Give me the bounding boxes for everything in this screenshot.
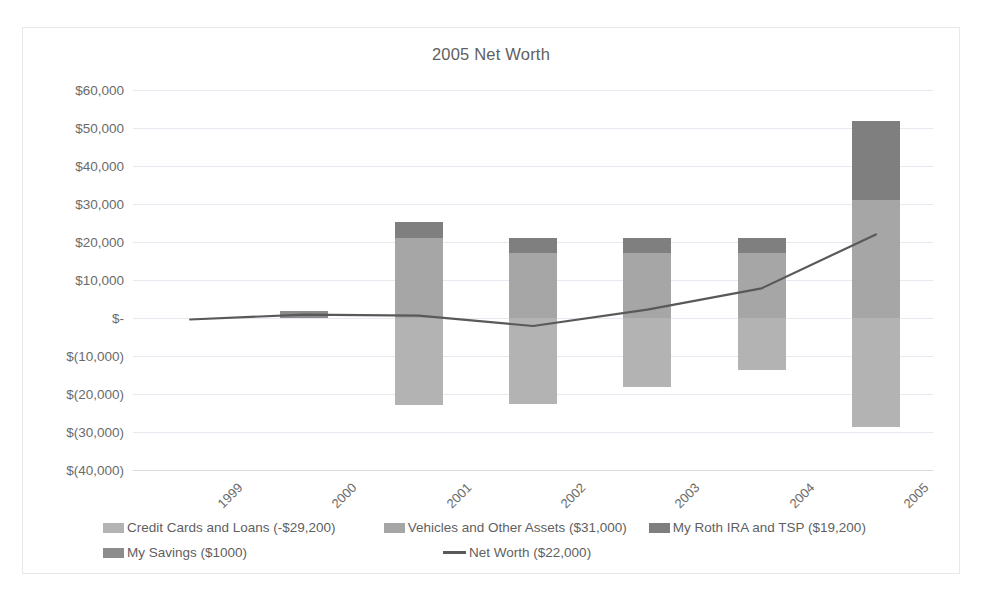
legend-color-swatch [103, 523, 124, 533]
x-axis-line [133, 470, 933, 471]
legend-color-swatch [384, 523, 405, 533]
x-axis-tick-label-1999: 1999 [215, 480, 246, 511]
legend-line-marker [443, 548, 466, 558]
x-axis-tick-label-2000: 2000 [329, 480, 360, 511]
legend-row: Credit Cards and Loans (-$29,200)Vehicle… [103, 515, 903, 540]
y-axis-tick-label: $50,000 [75, 121, 124, 136]
chart-legend: Credit Cards and Loans (-$29,200)Vehicle… [103, 515, 903, 565]
y-axis-tick-label: $(10,000) [66, 349, 124, 364]
legend-item[interactable]: My Roth IRA and TSP ($19,200) [649, 520, 866, 535]
chart-title: 2005 Net Worth [23, 45, 959, 64]
legend-color-swatch [649, 523, 670, 533]
legend-label: Credit Cards and Loans (-$29,200) [127, 520, 336, 535]
plot-area: $60,000$50,000$40,000$30,000$20,000$10,0… [133, 90, 933, 470]
legend-color-swatch [103, 548, 124, 558]
x-axis-tick-label-2005: 2005 [900, 480, 931, 511]
x-axis-tick-label-2001: 2001 [443, 480, 474, 511]
y-axis-tick-label: $(20,000) [66, 387, 124, 402]
y-axis-tick-label: $10,000 [75, 273, 124, 288]
legend-item[interactable]: Credit Cards and Loans (-$29,200) [103, 520, 336, 535]
y-axis-tick-label: $(40,000) [66, 463, 124, 478]
legend-label: Net Worth ($22,000) [469, 545, 591, 560]
y-axis-tick-label: $30,000 [75, 197, 124, 212]
net-worth-line-series [133, 90, 933, 470]
chart-container: 2005 Net Worth $60,000$50,000$40,000$30,… [22, 27, 960, 574]
legend-row: My Savings ($1000)Net Worth ($22,000) [103, 540, 903, 565]
legend-item[interactable]: My Savings ($1000) [103, 545, 247, 560]
y-axis-tick-label: $- [112, 311, 124, 326]
x-axis-tick-label-2003: 2003 [672, 480, 703, 511]
x-axis-tick-label-2004: 2004 [786, 480, 817, 511]
legend-item[interactable]: Vehicles and Other Assets ($31,000) [384, 520, 627, 535]
y-axis-tick-label: $60,000 [75, 83, 124, 98]
net-worth-line[interactable] [190, 234, 876, 326]
legend-label: Vehicles and Other Assets ($31,000) [408, 520, 627, 535]
x-axis-tick-label-2002: 2002 [557, 480, 588, 511]
y-axis-tick-label: $20,000 [75, 235, 124, 250]
y-axis-tick-label: $40,000 [75, 159, 124, 174]
legend-label: My Savings ($1000) [127, 545, 247, 560]
legend-label: My Roth IRA and TSP ($19,200) [673, 520, 866, 535]
y-axis-tick-label: $(30,000) [66, 425, 124, 440]
legend-item[interactable]: Net Worth ($22,000) [443, 545, 591, 560]
